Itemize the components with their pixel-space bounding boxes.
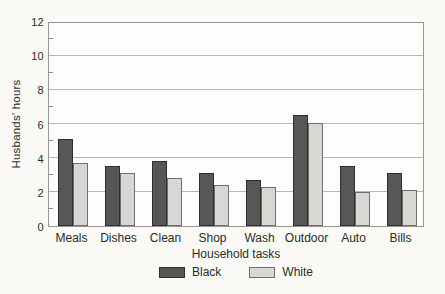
y-tick-label-8: 8: [2, 83, 44, 97]
x-axis-title: Household tasks: [48, 247, 424, 261]
x-tick-label-dishes: Dishes: [95, 231, 142, 245]
bar-black-shop: [199, 173, 214, 226]
x-tick-label-outdoor: Outdoor: [283, 231, 330, 245]
bar-chart-figure: Husbands' hours 024681012 MealsDishesCle…: [0, 0, 445, 294]
y-tick-label-12: 12: [2, 15, 44, 29]
minor-tick-y-9: [49, 72, 53, 73]
bar-black-clean: [152, 161, 167, 226]
bar-black-auto: [340, 166, 355, 226]
legend-label-black: Black: [192, 265, 221, 279]
bar-black-wash: [246, 180, 261, 226]
bar-black-dishes: [105, 166, 120, 226]
legend-swatch-white: [249, 267, 275, 278]
bar-white-meals: [73, 163, 88, 226]
legend: BlackWhite: [48, 265, 424, 279]
legend-label-white: White: [282, 265, 313, 279]
bar-white-shop: [214, 185, 229, 226]
minor-tick-y-1: [49, 208, 53, 209]
minor-tick-y-11: [49, 38, 53, 39]
gridline-y-8: [49, 89, 423, 90]
legend-item-white: White: [249, 265, 313, 279]
x-tick-label-meals: Meals: [48, 231, 95, 245]
bar-black-bills: [387, 173, 402, 226]
bar-black-meals: [58, 139, 73, 226]
y-tick-label-6: 6: [2, 118, 44, 132]
bar-white-outdoor: [308, 123, 323, 226]
y-tick-label-0: 0: [2, 220, 44, 234]
legend-item-black: Black: [159, 265, 221, 279]
minor-tick-y-7: [49, 106, 53, 107]
x-tick-label-auto: Auto: [330, 231, 377, 245]
bar-white-wash: [261, 187, 276, 226]
bar-white-clean: [167, 178, 182, 226]
minor-tick-y-3: [49, 174, 53, 175]
gridline-y-4: [49, 157, 423, 158]
bar-white-bills: [402, 190, 417, 226]
x-tick-label-shop: Shop: [189, 231, 236, 245]
bar-black-outdoor: [293, 115, 308, 226]
x-tick-label-wash: Wash: [236, 231, 283, 245]
gridline-y-10: [49, 55, 423, 56]
y-tick-label-4: 4: [2, 152, 44, 166]
x-tick-label-clean: Clean: [142, 231, 189, 245]
minor-tick-y-5: [49, 140, 53, 141]
bar-white-auto: [355, 192, 370, 226]
x-tick-label-bills: Bills: [377, 231, 424, 245]
plot-area: [48, 22, 424, 227]
y-tick-label-2: 2: [2, 186, 44, 200]
bar-white-dishes: [120, 173, 135, 226]
legend-swatch-black: [159, 267, 185, 278]
gridline-y-6: [49, 123, 423, 124]
y-tick-label-10: 10: [2, 49, 44, 63]
